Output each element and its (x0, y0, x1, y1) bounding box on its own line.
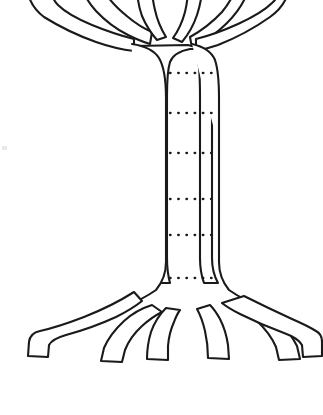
trunk-left-wall (126, 44, 166, 306)
tree-figure (0, 0, 323, 415)
tree-diagram-canvas (0, 0, 323, 415)
stray-mark (2, 146, 7, 150)
